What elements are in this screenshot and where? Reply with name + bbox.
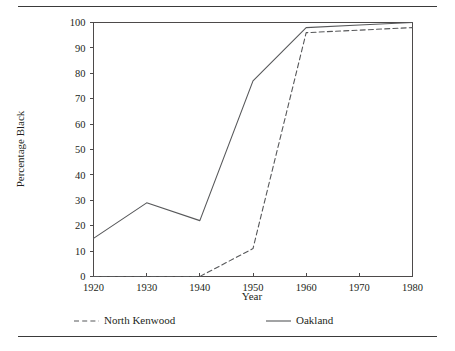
data-series-group bbox=[94, 23, 413, 277]
legend-label-north-kenwood: North Kenwood bbox=[104, 314, 176, 326]
y-axis-tick-label: 90 bbox=[75, 43, 86, 54]
y-axis-tick-label: 80 bbox=[75, 68, 86, 79]
x-axis-tick-label: 1980 bbox=[402, 282, 423, 293]
y-axis-tick-label: 50 bbox=[75, 144, 86, 155]
y-axis-tick-label: 70 bbox=[75, 93, 86, 104]
y-axis-tick-label: 60 bbox=[75, 119, 86, 130]
x-axis-tick-label: 1940 bbox=[189, 282, 210, 293]
y-axis-tick-label: 10 bbox=[75, 246, 86, 257]
figure-container: 0102030405060708090100 19201930194019501… bbox=[0, 0, 455, 351]
chart-legend: North KenwoodOakland bbox=[74, 314, 334, 326]
y-axis-tick-label: 20 bbox=[75, 220, 86, 231]
x-axis-tick-label: 1930 bbox=[136, 282, 157, 293]
legend-label-oakland: Oakland bbox=[296, 314, 334, 326]
series-line-north-kenwood bbox=[94, 28, 413, 277]
plot-frame bbox=[94, 23, 413, 277]
x-axis-tick-label: 1920 bbox=[83, 282, 104, 293]
x-axis-tick-label: 1960 bbox=[296, 282, 317, 293]
x-axis-title: Year bbox=[242, 290, 263, 302]
y-axis: 0102030405060708090100 bbox=[70, 17, 94, 282]
y-axis-tick-label: 0 bbox=[80, 271, 85, 282]
series-line-oakland bbox=[94, 23, 413, 239]
y-axis-title: Percentage Black bbox=[14, 110, 26, 187]
line-chart: 0102030405060708090100 19201930194019501… bbox=[0, 0, 455, 351]
x-axis-tick-label: 1970 bbox=[349, 282, 370, 293]
y-axis-tick-label: 30 bbox=[75, 195, 86, 206]
y-axis-tick-label: 40 bbox=[75, 170, 86, 181]
y-axis-tick-label: 100 bbox=[70, 17, 86, 28]
